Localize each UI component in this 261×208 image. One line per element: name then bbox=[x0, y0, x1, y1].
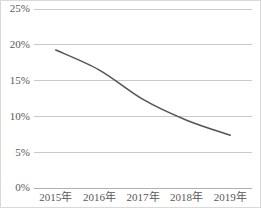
x-tick-label-2016年: 2016年 bbox=[83, 190, 116, 203]
series-line-path bbox=[56, 50, 230, 135]
x-tick-label-2017年: 2017年 bbox=[127, 190, 160, 203]
y-tick-label-20%: 20% bbox=[10, 38, 30, 50]
x-axis-tick-labels: 2015年2016年2017年2018年2019年 bbox=[39, 190, 246, 203]
x-tick-label-2015年: 2015年 bbox=[39, 190, 72, 203]
data-series-line bbox=[56, 50, 230, 135]
y-tick-label-25%: 25% bbox=[10, 2, 30, 14]
y-tick-label-0%: 0% bbox=[15, 181, 30, 193]
y-axis-tick-labels: 0%5%10%15%20%25% bbox=[10, 2, 30, 193]
x-tick-label-2018年: 2018年 bbox=[170, 190, 203, 203]
y-tick-label-5%: 5% bbox=[15, 146, 30, 158]
x-tick-label-2019年: 2019年 bbox=[214, 190, 247, 203]
y-tick-label-10%: 10% bbox=[10, 110, 30, 122]
chart-plot: 0%5%10%15%20%25% 2015年2016年2017年2018年201… bbox=[1, 1, 261, 208]
chart-figure: 0%5%10%15%20%25% 2015年2016年2017年2018年201… bbox=[0, 0, 261, 208]
y-tick-label-15%: 15% bbox=[10, 74, 30, 86]
